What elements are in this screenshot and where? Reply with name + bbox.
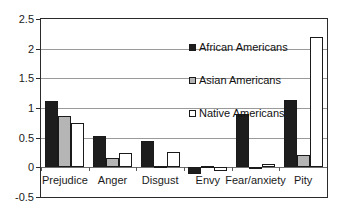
bar-native-americans-fear-anxiety xyxy=(262,164,275,167)
bar-group: Prejudice xyxy=(41,19,89,197)
y-axis-label: 0 xyxy=(28,161,34,173)
bar-asian-americans-pity xyxy=(297,155,310,167)
bar-asian-americans-disgust xyxy=(154,166,167,168)
legend-item-native-americans: Native Americans xyxy=(189,107,288,119)
bar-african-americans-prejudice xyxy=(45,101,58,167)
legend-swatch-icon xyxy=(189,110,196,117)
x-axis-tick xyxy=(232,167,233,171)
y-axis-label: 0.5 xyxy=(19,132,34,144)
x-axis-category-label: Fear/anxiety xyxy=(225,174,286,186)
x-axis-tick xyxy=(41,167,42,171)
bar-native-americans-pity xyxy=(310,37,323,167)
x-axis-category-label: Disgust xyxy=(142,174,179,186)
bar-african-americans-anger xyxy=(93,136,106,167)
x-axis-tick xyxy=(184,167,185,171)
bar-native-americans-disgust xyxy=(167,152,180,167)
bar-group: Anger xyxy=(89,19,137,197)
y-axis-label: 1.5 xyxy=(19,72,34,84)
x-axis-category-label: Anger xyxy=(98,174,127,186)
legend-label: Native Americans xyxy=(199,107,285,119)
bar-asian-americans-envy xyxy=(201,166,214,168)
legend-swatch-icon xyxy=(189,44,196,51)
chart-legend: African Americans Asian Americans Native… xyxy=(189,41,288,119)
x-axis-tick xyxy=(136,167,137,171)
y-axis-label: 2.5 xyxy=(19,13,34,25)
bar-chart: 2.521.510.50-0.5PrejudiceAngerDisgustEnv… xyxy=(0,0,346,217)
bar-asian-americans-fear-anxiety xyxy=(249,167,262,169)
bar-african-americans-fear-anxiety xyxy=(236,114,249,167)
y-axis-label: 1 xyxy=(28,102,34,114)
legend-label: Asian Americans xyxy=(199,74,281,86)
x-axis-tick xyxy=(89,167,90,171)
y-axis-tick xyxy=(36,197,41,198)
bar-group: Disgust xyxy=(136,19,184,197)
x-axis-tick xyxy=(279,167,280,171)
x-axis-category-label: Prejudice xyxy=(42,174,88,186)
bar-african-americans-envy xyxy=(188,167,201,174)
x-axis-category-label: Envy xyxy=(196,174,220,186)
x-axis-category-label: Pity xyxy=(294,174,312,186)
y-axis-label: 2 xyxy=(28,43,34,55)
bar-asian-americans-prejudice xyxy=(58,116,71,168)
y-axis-label: -0.5 xyxy=(15,191,34,203)
legend-item-asian-americans: Asian Americans xyxy=(189,74,288,86)
bar-native-americans-prejudice xyxy=(71,123,84,167)
legend-label: African Americans xyxy=(199,41,288,53)
bar-native-americans-anger xyxy=(119,153,132,167)
legend-item-african-americans: African Americans xyxy=(189,41,288,53)
plot-frame: 2.521.510.50-0.5PrejudiceAngerDisgustEnv… xyxy=(40,18,328,198)
legend-swatch-icon xyxy=(189,77,196,84)
bar-african-americans-disgust xyxy=(141,141,154,167)
bar-native-americans-envy xyxy=(214,167,227,171)
bar-asian-americans-anger xyxy=(106,158,119,167)
